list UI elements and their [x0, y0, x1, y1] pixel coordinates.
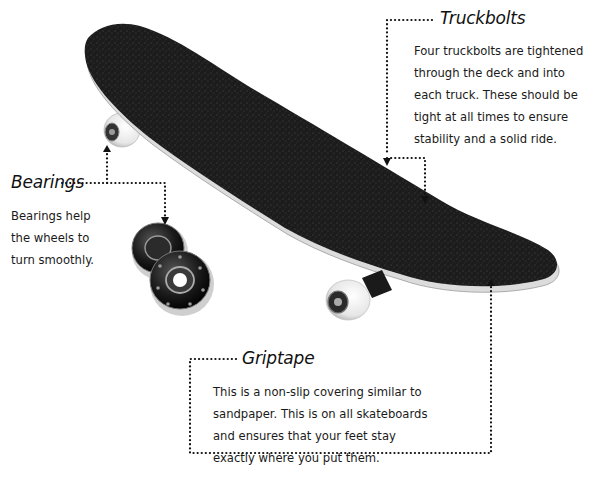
griptape-line: and ensures that your feet stay — [213, 425, 427, 447]
griptape-description: This is a non-slip covering similar to s… — [213, 381, 427, 469]
bearings-image — [132, 223, 214, 316]
truckbolts-line: stability and a solid ride. — [414, 128, 583, 150]
truckbolts-line: tight at all times to ensure — [414, 106, 583, 128]
front-wheel — [326, 280, 370, 320]
truckbolts-description: Four truckbolts are tightened through th… — [414, 40, 583, 150]
bearings-title: Bearings — [11, 172, 84, 192]
truckbolts-line: each truck. These should be — [414, 84, 583, 106]
griptape-line: sandpaper. This is on all skateboards — [213, 403, 427, 425]
bearings-line: the wheels to — [11, 227, 94, 249]
griptape-line: exactly where you put them. — [213, 447, 427, 469]
griptape-title: Griptape — [242, 348, 314, 368]
truckbolts-title: Truckbolts — [440, 8, 525, 28]
bearings-line: Bearings help — [11, 205, 94, 227]
bearings-description: Bearings help the wheels to turn smoothl… — [11, 205, 94, 271]
truckbolts-line: Four truckbolts are tightened — [414, 40, 583, 62]
griptape-line: This is a non-slip covering similar to — [213, 381, 427, 403]
truckbolts-line: through the deck and into — [414, 62, 583, 84]
bearings-line: turn smoothly. — [11, 249, 94, 271]
